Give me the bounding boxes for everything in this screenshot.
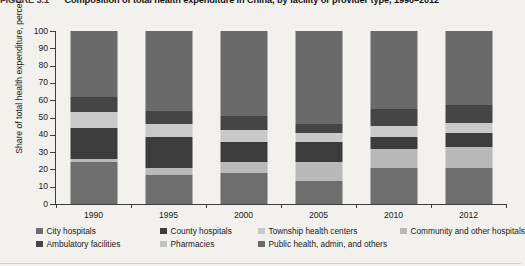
bar-segment[interactable]: [70, 128, 117, 159]
legend-item[interactable]: Community and other hospitals: [400, 226, 525, 236]
chart-legend: City hospitalsCounty hospitalsTownship h…: [0, 226, 521, 260]
x-tickmark: [431, 204, 432, 208]
x-tickmark: [56, 204, 57, 208]
legend-item[interactable]: Pharmacies: [160, 239, 214, 249]
bar-segment[interactable]: [295, 162, 342, 181]
legend-label: Township health centers: [269, 226, 358, 236]
bar-segment[interactable]: [145, 124, 192, 136]
y-tick-0: 0: [22, 200, 48, 209]
bar-segment[interactable]: [295, 133, 342, 142]
legend-item[interactable]: Township health centers: [258, 226, 358, 236]
y-tick-90: 90: [22, 44, 48, 53]
page-divider: [0, 263, 521, 264]
bar-segment[interactable]: [370, 126, 417, 136]
bar-group-2005: [281, 31, 356, 204]
bar-segment[interactable]: [220, 116, 267, 130]
bar-segment[interactable]: [295, 142, 342, 163]
x-tickmark: [356, 204, 357, 208]
x-tickmark: [131, 204, 132, 208]
legend-swatch-icon: [36, 241, 43, 248]
bar-segment[interactable]: [445, 168, 492, 204]
x-tickmark: [506, 204, 507, 208]
legend-swatch-icon: [36, 228, 43, 235]
legend-item[interactable]: Public health, admin, and others: [258, 239, 387, 249]
legend-swatch-icon: [400, 228, 407, 235]
stacked-bar[interactable]: [220, 31, 267, 204]
bar-segment[interactable]: [445, 105, 492, 122]
y-tick-20: 20: [22, 165, 48, 174]
y-tick-10: 10: [22, 182, 48, 191]
legend-label: County hospitals: [171, 226, 232, 236]
y-tick-80: 80: [22, 61, 48, 70]
bar-segment[interactable]: [370, 31, 417, 109]
stacked-bar[interactable]: [445, 31, 492, 204]
y-tick-30: 30: [22, 148, 48, 157]
bar-segment[interactable]: [145, 31, 192, 111]
stacked-bar[interactable]: [295, 31, 342, 204]
x-tick-label-2012: 2012: [439, 210, 499, 220]
legend-swatch-icon: [160, 228, 167, 235]
bar-segment[interactable]: [145, 137, 192, 168]
bar-segment[interactable]: [370, 149, 417, 168]
bar-segment[interactable]: [445, 133, 492, 147]
legend-label: City hospitals: [47, 226, 96, 236]
bar-group-2000: [206, 31, 281, 204]
x-tickmark: [281, 204, 282, 208]
x-tickmark: [206, 204, 207, 208]
legend-label: Community and other hospitals: [411, 226, 525, 236]
plot-area: [56, 31, 506, 204]
legend-label: Public health, admin, and others: [269, 239, 388, 249]
bar-segment[interactable]: [295, 181, 342, 203]
x-tick-label-1990: 1990: [64, 210, 124, 220]
bar-segment[interactable]: [295, 124, 342, 133]
bar-segment[interactable]: [145, 175, 192, 204]
legend-item[interactable]: County hospitals: [160, 226, 232, 236]
bar-segment[interactable]: [70, 162, 117, 204]
figure-title-bar: FIGURE 3.1 Composition of total health e…: [0, 0, 521, 11]
bar-group-2010: [356, 31, 431, 204]
bar-segment[interactable]: [295, 31, 342, 124]
bar-segment[interactable]: [445, 31, 492, 105]
x-tick-label-2000: 2000: [214, 210, 274, 220]
y-tick-70: 70: [22, 78, 48, 87]
legend-swatch-icon: [160, 241, 167, 248]
bar-segment[interactable]: [445, 147, 492, 168]
legend-label: Ambulatory facilities: [47, 239, 121, 249]
x-tick-label-2010: 2010: [364, 210, 424, 220]
bar-segment[interactable]: [220, 173, 267, 204]
y-tick-100: 100: [22, 27, 48, 36]
legend-item[interactable]: City hospitals: [36, 226, 96, 236]
x-tick-label-1995: 1995: [139, 210, 199, 220]
legend-label: Pharmacies: [171, 239, 215, 249]
legend-swatch-icon: [258, 241, 265, 248]
stacked-bar[interactable]: [70, 31, 117, 204]
bar-segment[interactable]: [145, 168, 192, 175]
y-tick-50: 50: [22, 113, 48, 122]
bar-segment[interactable]: [70, 97, 117, 113]
y-tick-40: 40: [22, 130, 48, 139]
bar-segment[interactable]: [220, 162, 267, 172]
bar-segment[interactable]: [370, 168, 417, 204]
bar-segment[interactable]: [370, 109, 417, 126]
bar-group-1990: [56, 31, 131, 204]
bar-segment[interactable]: [145, 111, 192, 125]
bar-group-1995: [131, 31, 206, 204]
bar-segment[interactable]: [70, 31, 117, 97]
y-axis-tick-labels: 0102030405060708090100: [22, 14, 48, 204]
legend-item[interactable]: Ambulatory facilities: [36, 239, 120, 249]
x-tick-label-2005: 2005: [289, 210, 349, 220]
bar-segment[interactable]: [445, 123, 492, 133]
legend-swatch-icon: [258, 228, 265, 235]
stacked-bar[interactable]: [145, 31, 192, 204]
y-tick-60: 60: [22, 96, 48, 105]
bar-segment[interactable]: [220, 142, 267, 163]
stacked-bar-chart: Share of total health expenditure, perce…: [0, 14, 521, 214]
bar-segment[interactable]: [70, 112, 117, 128]
bar-segment[interactable]: [220, 130, 267, 142]
bar-segment[interactable]: [220, 31, 267, 116]
figure-label: FIGURE 3.1: [0, 0, 49, 5]
bar-segment[interactable]: [370, 137, 417, 149]
figure-title: Composition of total health expenditure …: [65, 0, 440, 5]
stacked-bar[interactable]: [370, 31, 417, 204]
bar-group-2012: [431, 31, 506, 204]
